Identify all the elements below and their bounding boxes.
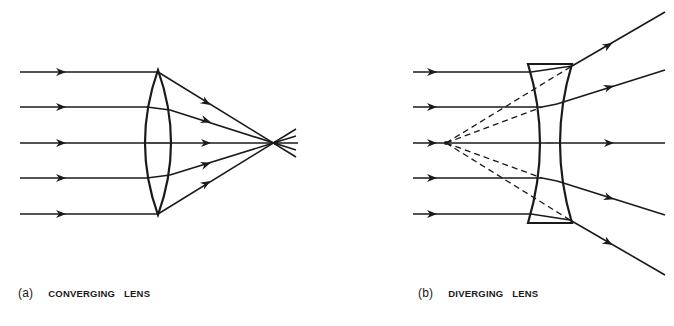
arrowhead-icon	[603, 82, 615, 93]
panel-label: CONVERGING LENS	[48, 288, 150, 299]
focal-point	[274, 141, 278, 145]
arrowhead-icon	[603, 192, 615, 203]
lens-diagram	[0, 0, 674, 326]
internal-ray	[542, 178, 557, 181]
internal-ray	[147, 107, 170, 110]
panel-label: DIVERGING LENS	[448, 288, 538, 299]
converging-lens-panel	[20, 68, 298, 218]
diverging-rays	[553, 12, 665, 275]
internal-ray	[147, 175, 170, 178]
caption-converging-lens: (a) CONVERGING LENS	[18, 286, 150, 300]
refracted-ray	[572, 12, 665, 66]
converging-rays	[158, 72, 298, 214]
panel-tag: (b)	[418, 286, 433, 300]
refracted-ray	[570, 220, 665, 275]
internal-ray	[542, 104, 557, 107]
arrowhead-icon	[602, 237, 615, 249]
diverging-lens-panel	[413, 12, 665, 275]
virtual-focal-point	[444, 141, 448, 145]
virtual-ray	[446, 143, 542, 178]
arrowhead-icon	[602, 40, 615, 52]
virtual-ray	[446, 107, 542, 143]
incoming-rays	[20, 68, 158, 218]
virtual-ray	[446, 143, 570, 220]
internal-ray	[531, 214, 570, 220]
caption-diverging-lens: (b) DIVERGING LENS	[418, 286, 538, 300]
incoming-rays	[413, 68, 546, 218]
panel-tag: (a)	[18, 286, 33, 300]
